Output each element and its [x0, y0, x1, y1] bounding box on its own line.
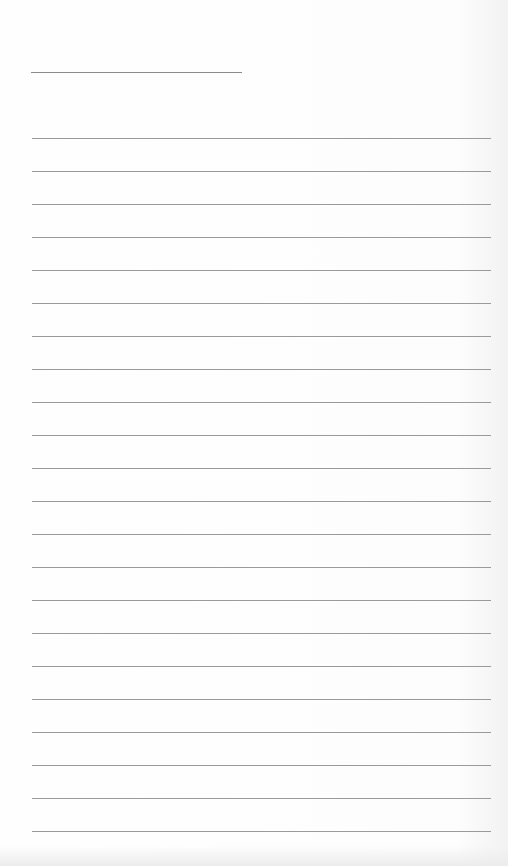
ruled-line	[32, 270, 491, 271]
ruled-line	[32, 501, 491, 502]
ruled-line	[32, 303, 491, 304]
ruled-line	[32, 666, 491, 667]
lined-paper-page	[0, 0, 508, 866]
ruled-line	[32, 171, 491, 172]
ruled-line	[32, 600, 491, 601]
ruled-line	[32, 237, 491, 238]
bottom-shade	[0, 846, 508, 866]
ruled-line	[32, 336, 491, 337]
ruled-line	[32, 138, 491, 139]
ruled-line	[32, 798, 491, 799]
ruled-line	[32, 765, 491, 766]
ruled-line	[32, 204, 491, 205]
ruled-line	[32, 633, 491, 634]
ruled-line	[32, 567, 491, 568]
ruled-line	[32, 831, 491, 832]
ruled-line	[32, 402, 491, 403]
ruled-line	[32, 534, 491, 535]
ruled-line	[32, 369, 491, 370]
ruled-line	[32, 468, 491, 469]
ruled-line	[32, 435, 491, 436]
title-line	[31, 72, 242, 73]
ruled-line	[32, 732, 491, 733]
ruled-line	[32, 699, 491, 700]
